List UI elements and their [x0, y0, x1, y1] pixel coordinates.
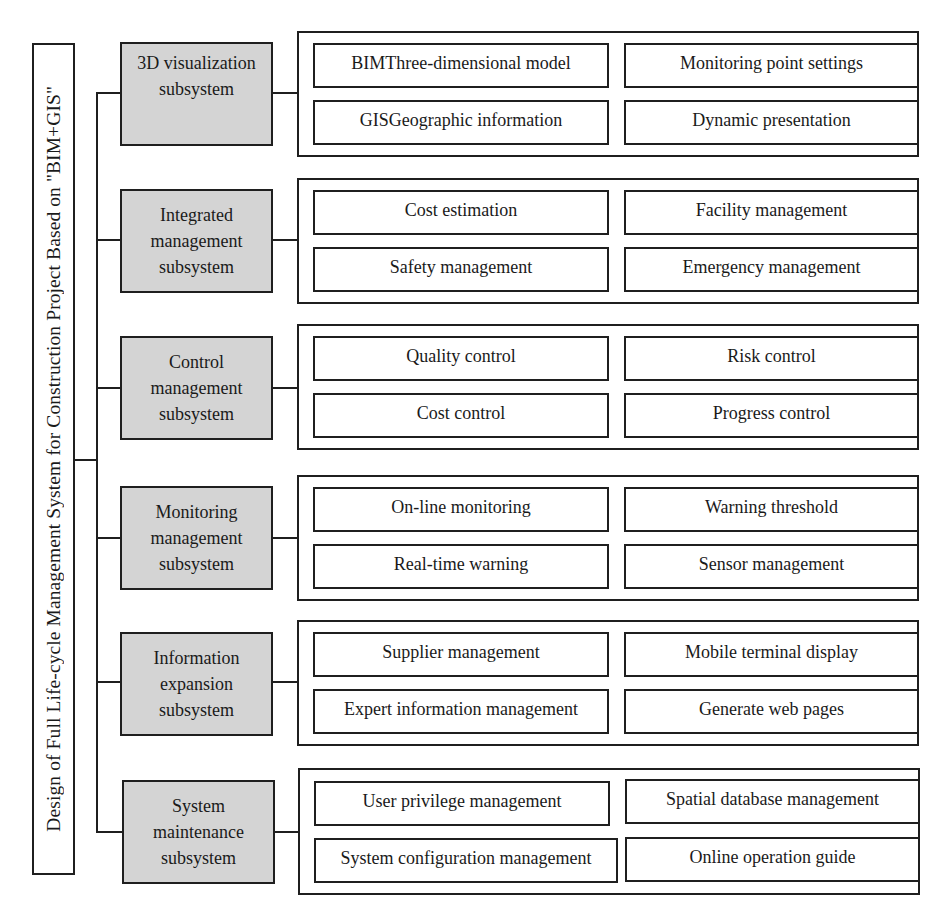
subsystem-label-line: subsystem [159, 76, 234, 102]
module-box: GISGeographic information [313, 100, 609, 145]
subsystem-information-expansion: Information expansion subsystem [120, 632, 273, 736]
subsystem-label-line: management [151, 375, 243, 401]
bus-branch-2 [96, 239, 120, 241]
root-title: Design of Full Life-cycle Management Sys… [43, 86, 65, 832]
group-connector-2 [273, 239, 297, 241]
module-box: Warning threshold [624, 487, 919, 532]
module-box: Risk control [624, 336, 919, 381]
subsystem-label-line: subsystem [159, 551, 234, 577]
module-box: BIMThree-dimensional model [313, 43, 609, 88]
subsystem-monitoring-management: Monitoring management subsystem [120, 486, 273, 590]
group-connector-3 [273, 387, 297, 389]
bus-branch-6 [96, 831, 122, 833]
module-box: Real-time warning [313, 544, 609, 589]
module-box: Supplier management [313, 632, 609, 677]
group-integrated-management: Cost estimation Facility management Safe… [297, 178, 919, 304]
module-box: Cost control [313, 393, 609, 438]
subsystem-label-line: management [151, 525, 243, 551]
subsystem-system-maintenance: System maintenance subsystem [122, 780, 275, 884]
subsystem-label-line: Control [169, 349, 224, 375]
bus-branch-4 [96, 537, 120, 539]
subsystem-label-line: Monitoring [155, 499, 237, 525]
module-box: Sensor management [624, 544, 919, 589]
module-box: Expert information management [313, 689, 609, 734]
subsystem-label-line: subsystem [159, 401, 234, 427]
bus-branch-5 [96, 681, 120, 683]
group-system-maintenance: User privilege management Spatial databa… [298, 768, 920, 895]
subsystem-integrated-management: Integrated management subsystem [120, 189, 273, 293]
group-control-management: Quality control Risk control Cost contro… [297, 324, 919, 450]
subsystem-label-line: 3D visualization [137, 50, 255, 76]
bus-branch-1 [96, 92, 120, 94]
subsystem-label-line: management [151, 228, 243, 254]
title-connector [75, 459, 98, 461]
module-box: Online operation guide [625, 837, 920, 882]
subsystem-label-line: System [172, 793, 225, 819]
module-box: User privilege management [314, 781, 610, 826]
root-title-box: Design of Full Life-cycle Management Sys… [32, 43, 75, 875]
module-box: Spatial database management [625, 779, 920, 824]
module-box: Cost estimation [313, 190, 609, 235]
subsystem-3d-visualization: 3D visualization subsystem [120, 42, 273, 146]
group-connector-4 [273, 537, 297, 539]
module-box: Emergency management [624, 247, 919, 292]
group-connector-6 [275, 831, 298, 833]
module-box: Safety management [313, 247, 609, 292]
module-box: Monitoring point settings [624, 43, 919, 88]
subsystem-label-line: subsystem [161, 845, 236, 871]
subsystem-label-line: expansion [160, 671, 233, 697]
bus-branch-3 [96, 387, 120, 389]
subsystem-label-line: Integrated [160, 202, 233, 228]
module-box: Quality control [313, 336, 609, 381]
subsystem-label-line: subsystem [159, 697, 234, 723]
group-connector-1 [273, 92, 297, 94]
subsystem-label-line: Information [154, 645, 240, 671]
module-box: On-line monitoring [313, 487, 609, 532]
group-information-expansion: Supplier management Mobile terminal disp… [297, 620, 919, 746]
group-connector-5 [273, 681, 297, 683]
module-box: Facility management [624, 190, 919, 235]
module-box: Mobile terminal display [624, 632, 919, 677]
subsystem-label-line: maintenance [153, 819, 244, 845]
vertical-bus [96, 92, 98, 833]
module-box: System configuration management [314, 838, 618, 883]
subsystem-control-management: Control management subsystem [120, 336, 273, 440]
module-box: Dynamic presentation [624, 100, 919, 145]
module-box: Progress control [624, 393, 919, 438]
group-monitoring-management: On-line monitoring Warning threshold Rea… [297, 475, 919, 601]
subsystem-label-line: subsystem [159, 254, 234, 280]
module-box: Generate web pages [624, 689, 919, 734]
group-3d-visualization: BIMThree-dimensional model Monitoring po… [297, 31, 919, 157]
